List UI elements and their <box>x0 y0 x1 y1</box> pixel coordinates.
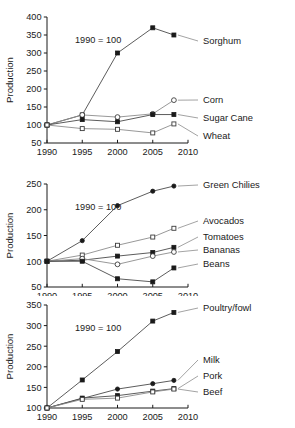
y-tick-label: 150 <box>26 383 41 393</box>
series-avocados <box>45 226 176 263</box>
series-leader <box>178 221 198 228</box>
y-tick-label: 150 <box>26 102 41 112</box>
y-tick-label: 150 <box>26 231 41 241</box>
y-tick-label: 100 <box>26 257 41 267</box>
series-wheat <box>45 122 176 135</box>
x-tick-label: 2000 <box>107 147 127 157</box>
y-axis-ticks: 50100150200250300350400 <box>26 12 47 148</box>
y-axis-ticks: 100150200250300350 <box>26 300 47 413</box>
y-tick-label: 350 <box>26 300 41 310</box>
y-axis-ticks: 50100150200250 <box>26 179 47 292</box>
axes <box>47 305 188 408</box>
series-corn <box>45 98 177 128</box>
index-annotation: 1990 = 100 <box>75 35 121 45</box>
y-tick-label: 300 <box>26 321 41 331</box>
chart-svg: 5010015020025019901995200020052010Produc… <box>0 165 295 296</box>
series-leader <box>178 237 198 247</box>
index-annotation: 1990 = 100 <box>75 323 121 333</box>
x-tick-label: 2005 <box>143 147 163 157</box>
chart-svg: 5010015020025030035040019901995200020052… <box>0 0 295 165</box>
series-leader <box>178 124 198 136</box>
x-axis-ticks: 19901995200020052010 <box>37 284 198 296</box>
y-tick-label: 250 <box>26 342 41 352</box>
y-tick-label: 200 <box>26 84 41 94</box>
series-label: Wheat <box>203 130 230 141</box>
y-axis-title: Production <box>4 57 15 103</box>
series-label: Bananas <box>203 244 240 255</box>
series-label: Sugar Cane <box>203 112 253 123</box>
series-leader <box>178 115 198 118</box>
series-label: Tomatoes <box>203 231 244 242</box>
x-axis-ticks: 19901995200020052010 <box>37 405 198 422</box>
x-tick-label: 2010 <box>178 147 198 157</box>
x-tick-label: 1990 <box>37 147 57 157</box>
x-tick-label: 1995 <box>72 147 92 157</box>
series-tomatoes <box>45 245 176 263</box>
series-leader <box>178 250 198 252</box>
series-label: Corn <box>203 94 223 105</box>
x-axis-ticks: 19901995200020052010 <box>37 140 198 157</box>
y-tick-label: 400 <box>26 12 41 22</box>
y-tick-label: 200 <box>26 362 41 372</box>
series-label: Sorghum <box>203 35 241 46</box>
y-tick-label: 250 <box>26 179 41 189</box>
y-tick-label: 250 <box>26 66 41 76</box>
series-leader <box>178 264 198 268</box>
series-label: Poultry/fowl <box>203 302 251 313</box>
series-label: Beef <box>203 386 223 397</box>
axes <box>47 184 188 287</box>
series-leader <box>178 389 198 392</box>
series-leader <box>178 308 198 312</box>
y-axis-title: Production <box>4 334 15 380</box>
x-tick-label: 2005 <box>143 412 163 422</box>
series-label: Green Chilies <box>203 179 260 190</box>
chart-panel-livestock: 10015020025030035019901995200020052010Pr… <box>0 296 295 428</box>
figure-root: 5010015020025030035040019901995200020052… <box>0 0 295 428</box>
y-tick-label: 100 <box>26 120 41 130</box>
y-tick-label: 350 <box>26 30 41 40</box>
series-label: Avocados <box>203 215 244 226</box>
x-tick-label: 1995 <box>72 412 92 422</box>
chart-panel-crops: 5010015020025030035040019901995200020052… <box>0 0 295 165</box>
series-leader <box>178 35 198 41</box>
series-leader <box>178 360 198 380</box>
x-tick-label: 1990 <box>37 412 57 422</box>
series-label: Beans <box>203 258 230 269</box>
y-tick-label: 200 <box>26 205 41 215</box>
y-axis-title: Production <box>4 213 15 259</box>
series-label: Milk <box>203 354 220 365</box>
series-leader <box>178 185 198 186</box>
chart-panel-produce: 5010015020025019901995200020052010Produc… <box>0 165 295 296</box>
x-tick-label: 2010 <box>178 412 198 422</box>
x-tick-label: 2000 <box>107 412 127 422</box>
y-tick-label: 300 <box>26 48 41 58</box>
chart-svg: 10015020025030035019901995200020052010Pr… <box>0 296 295 428</box>
series-label: Pork <box>203 370 223 381</box>
index-annotation: 1990 = 100 <box>75 202 121 212</box>
